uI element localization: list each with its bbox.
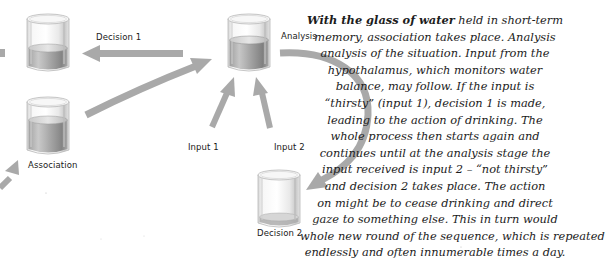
caption-line: gaze to something else. This in turn wou… <box>300 211 570 228</box>
caption-line: analysis of the situation. Input from th… <box>300 45 570 62</box>
caption-line: memory, association takes place. Analysi… <box>300 29 570 46</box>
caption-line: With the glass of water held in short-te… <box>300 12 570 29</box>
label-association: Association <box>28 160 78 170</box>
caption-line: endlessly and often innumerable times a … <box>300 244 570 260</box>
label-decision1: Decision 1 <box>96 32 141 42</box>
arrow-left-edge-top <box>0 49 5 57</box>
caption-text: With the glass of water held in short-te… <box>300 12 570 260</box>
arrow-association-to-analysis <box>86 58 212 115</box>
arrow-decision1 <box>82 45 183 62</box>
arrow-left-edge-bottom <box>0 160 19 188</box>
caption-line: and decision 2 takes place. The action <box>300 178 570 195</box>
glass-decision1 <box>27 14 69 71</box>
caption-line: whole new round of the sequence, which i… <box>300 228 570 245</box>
glass-decision2 <box>258 170 300 227</box>
glass-association <box>27 97 69 154</box>
caption-line: hypothalamus, which monitors water <box>300 62 570 79</box>
caption-line: continues until at the analysis stage th… <box>300 145 570 162</box>
caption-line: leading to the action of drinking. The <box>300 112 570 129</box>
label-input1: Input 1 <box>188 142 219 152</box>
caption-line: on might be to cease drinking and direct <box>300 195 570 212</box>
arrow-input2 <box>253 77 270 128</box>
glass-analysis <box>228 14 270 71</box>
caption-line: balance, may follow. If the input is <box>300 78 570 95</box>
label-decision2: Decision 2 <box>257 228 302 238</box>
caption-line: whole process then starts again and <box>300 128 570 145</box>
caption-line: “thirsty” (input 1), decision 1 is made, <box>300 95 570 112</box>
caption-bold-lead: With the glass of water <box>307 13 455 27</box>
caption-line: input received is input 2 – “not thirsty… <box>300 161 570 178</box>
arrow-input1 <box>212 77 235 127</box>
